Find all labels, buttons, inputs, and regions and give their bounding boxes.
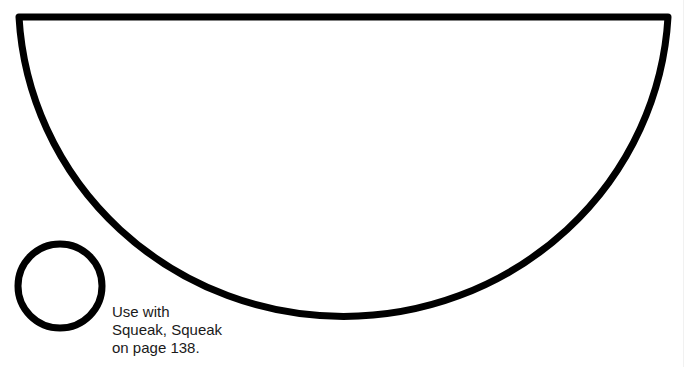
pattern-page: Use with Squeak, Squeak on page 138. bbox=[0, 0, 687, 367]
small-circle-shape bbox=[18, 244, 102, 328]
caption-line-2: Squeak, Squeak bbox=[112, 321, 222, 339]
caption-line-1: Use with bbox=[112, 303, 222, 321]
large-semicircle-shape bbox=[19, 17, 668, 316]
pattern-shapes bbox=[0, 0, 687, 367]
usage-caption: Use with Squeak, Squeak on page 138. bbox=[112, 303, 222, 357]
page-edge bbox=[683, 0, 684, 367]
caption-line-3: on page 138. bbox=[112, 339, 222, 357]
